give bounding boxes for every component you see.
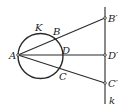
label-b: B (52, 26, 60, 37)
circle-k (18, 34, 63, 79)
label-b-prime: B′ (107, 13, 118, 24)
label-a: A (8, 50, 16, 61)
point-c-prime (104, 82, 107, 85)
label-line-k: k (109, 95, 115, 106)
point-a (17, 54, 20, 57)
label-d-prime: D′ (107, 50, 119, 61)
label-c-prime: C′ (108, 78, 119, 89)
point-b-prime (104, 17, 107, 20)
label-k-circle: K (34, 22, 43, 33)
point-d-prime (104, 54, 107, 57)
label-d: D (61, 45, 70, 56)
label-c: C (59, 71, 67, 82)
inversion-diagram: A K B D C B′ D′ C′ k (0, 0, 129, 111)
